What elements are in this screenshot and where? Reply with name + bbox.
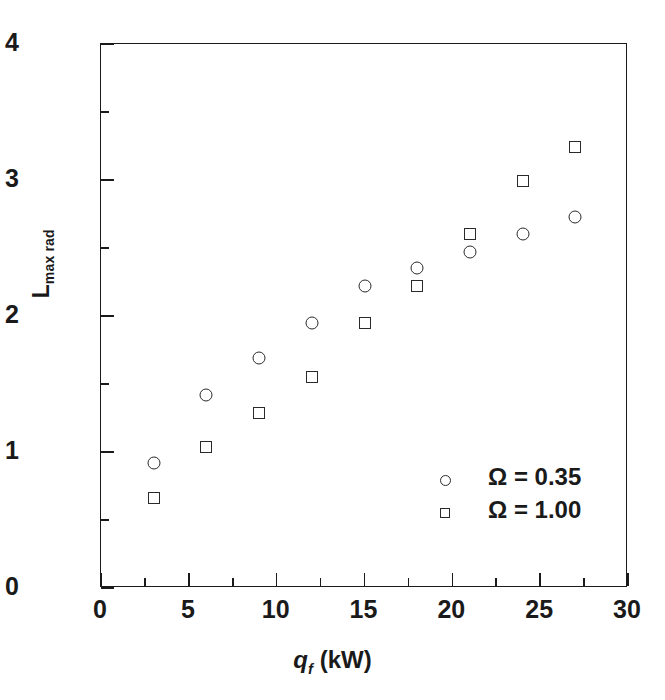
x-axis-tick-label: 10 xyxy=(262,597,290,622)
x-axis-title-units: (kW) xyxy=(313,646,372,673)
data-point-square xyxy=(464,228,476,240)
legend-marker-circle-icon xyxy=(440,475,451,486)
x-axis-tick-major xyxy=(627,573,629,586)
data-point-square xyxy=(569,141,581,153)
y-axis-title-subscript: max rad xyxy=(41,229,57,284)
data-point-square xyxy=(306,371,318,383)
y-axis-tick-label: 2 xyxy=(5,302,19,327)
x-axis-tick-major xyxy=(539,573,541,586)
y-axis-tick-major xyxy=(101,587,114,589)
y-axis-tick-major xyxy=(101,43,114,45)
data-point-square xyxy=(200,441,212,453)
x-axis-tick-major xyxy=(100,573,102,586)
x-axis-tick-minor xyxy=(320,578,322,586)
legend-item: Ω = 0.35 xyxy=(440,462,610,495)
y-axis-tick-label: 3 xyxy=(5,166,19,191)
x-axis-tick-label: 30 xyxy=(613,597,641,622)
y-axis-tick-minor xyxy=(101,519,109,521)
data-point-circle xyxy=(516,228,529,241)
x-axis-tick-label: 5 xyxy=(181,597,195,622)
legend-marker-square-icon xyxy=(440,508,450,518)
y-axis-tick-minor xyxy=(101,247,109,249)
scatter-plot-figure: 01234 051015202530 Lmax rad qf (kW) Ω = … xyxy=(0,0,665,700)
y-axis-tick-major xyxy=(101,179,114,181)
legend-label: Ω = 1.00 xyxy=(488,498,581,522)
data-point-circle xyxy=(358,280,371,293)
y-axis-title-symbol: L xyxy=(28,284,54,298)
x-axis-tick-major xyxy=(276,573,278,586)
x-axis-tick-minor xyxy=(408,578,410,586)
x-axis-tick-minor xyxy=(495,578,497,586)
y-axis-tick-major xyxy=(101,315,114,317)
x-axis-tick-label: 15 xyxy=(350,597,378,622)
x-axis-tick-major xyxy=(364,573,366,586)
x-axis-tick-major xyxy=(452,573,454,586)
x-axis-tick-minor xyxy=(583,578,585,586)
data-point-square xyxy=(411,280,423,292)
y-axis-tick-label: 0 xyxy=(5,574,19,599)
y-axis-tick-label: 4 xyxy=(5,30,19,55)
x-axis-tick-minor xyxy=(232,578,234,586)
y-axis-tick-label: 1 xyxy=(5,438,19,463)
data-point-square xyxy=(148,492,160,504)
legend: Ω = 0.35Ω = 1.00 xyxy=(440,462,610,528)
x-axis-tick-major xyxy=(188,573,190,586)
data-point-circle xyxy=(463,246,476,259)
x-axis-tick-label: 20 xyxy=(437,597,465,622)
x-axis-title: qf (kW) xyxy=(0,648,665,676)
data-point-circle xyxy=(305,316,318,329)
x-axis-tick-minor xyxy=(144,578,146,586)
data-point-square xyxy=(359,317,371,329)
data-point-circle xyxy=(253,352,266,365)
y-axis-tick-minor xyxy=(101,383,109,385)
x-axis-tick-label: 25 xyxy=(525,597,553,622)
y-axis-tick-minor xyxy=(101,111,109,113)
data-point-circle xyxy=(147,456,160,469)
x-axis-title-symbol: q xyxy=(293,646,308,673)
legend-item: Ω = 1.00 xyxy=(440,495,610,528)
x-axis-tick-label: 0 xyxy=(93,597,107,622)
data-point-square xyxy=(517,175,529,187)
data-point-circle xyxy=(569,210,582,223)
data-point-circle xyxy=(200,388,213,401)
legend-label: Ω = 0.35 xyxy=(488,465,581,489)
data-point-circle xyxy=(411,262,424,275)
y-axis-title: Lmax rad xyxy=(30,252,57,298)
y-axis-tick-major xyxy=(101,451,114,453)
data-point-square xyxy=(253,407,265,419)
